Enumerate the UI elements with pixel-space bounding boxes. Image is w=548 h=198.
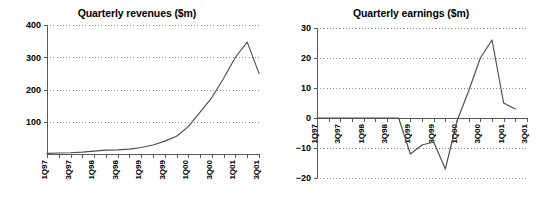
xtick-label-3Q99: 3Q99 <box>158 159 167 179</box>
chart-canvas-revenues: 1002003004001Q973Q971Q983Q981Q993Q991Q00… <box>0 0 274 198</box>
chart-panel-quarterly-earnings: Quarterly earnings ($m) −20−1001020301Q9… <box>274 0 548 198</box>
ytick-label-300: 300 <box>26 53 41 63</box>
xtick-label-3Q00: 3Q00 <box>205 159 214 179</box>
chart-panel-quarterly-revenues: Quarterly revenues ($m) 1002003004001Q97… <box>0 0 274 198</box>
xtick-label-1Q98: 1Q98 <box>357 123 366 143</box>
ytick-label-30: 30 <box>301 23 311 33</box>
xtick-label-3Q98: 3Q98 <box>111 159 120 179</box>
ytick-label-400: 400 <box>26 20 41 30</box>
xtick-label-3Q97: 3Q97 <box>333 123 342 143</box>
xtick-label-1Q97: 1Q97 <box>40 159 49 179</box>
xtick-label-1Q98: 1Q98 <box>87 159 96 179</box>
xtick-label-1Q01: 1Q01 <box>228 159 237 179</box>
xtick-label-3Q99: 3Q99 <box>427 123 436 143</box>
charts-figure: Quarterly revenues ($m) 1002003004001Q97… <box>0 0 548 198</box>
xtick-label-3Q01: 3Q01 <box>252 159 261 179</box>
ytick-label-200: 200 <box>26 85 41 95</box>
data-series-quarterly-earnings <box>317 40 515 169</box>
xtick-label-3Q98: 3Q98 <box>380 123 389 143</box>
ytick-label-100: 100 <box>26 117 41 127</box>
ytick-label--20: −20 <box>296 173 311 183</box>
xtick-label-1Q99: 1Q99 <box>403 123 412 143</box>
chart-canvas-earnings: −20−1001020301Q973Q971Q983Q981Q993Q991Q0… <box>274 0 548 198</box>
ytick-label-10: 10 <box>301 83 311 93</box>
data-series-quarterly-revenues <box>47 42 259 153</box>
xtick-label-1Q00: 1Q00 <box>181 159 190 179</box>
ytick-label--10: −10 <box>296 143 311 153</box>
xtick-label-3Q97: 3Q97 <box>64 159 73 179</box>
xtick-label-1Q99: 1Q99 <box>134 159 143 179</box>
ytick-label-0: 0 <box>306 113 311 123</box>
ytick-label-20: 20 <box>301 53 311 63</box>
xtick-label-1Q97: 1Q97 <box>310 123 319 143</box>
xtick-label-3Q01: 3Q01 <box>520 123 529 143</box>
xtick-label-1Q01: 1Q01 <box>497 123 506 143</box>
xtick-label-3Q00: 3Q00 <box>473 123 482 143</box>
